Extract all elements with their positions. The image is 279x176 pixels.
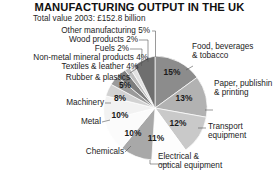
- label-transport-line2: equipment: [208, 131, 246, 140]
- label-food-beverages-tobacco: Food, beverages & tobacco: [192, 42, 253, 61]
- label-paper-line2: & printing: [214, 88, 249, 97]
- label-fuels: Fuels 2%: [0, 44, 129, 53]
- label-chemicals: Chemicals: [0, 147, 124, 156]
- pct-paper: 13%: [176, 93, 193, 103]
- label-non-metal-mineral-products: Non-metal mineral products 4%: [0, 53, 148, 62]
- label-metal: Metal: [0, 117, 101, 126]
- pie-slices: [104, 56, 207, 160]
- label-other-manufacturing: Other manufacturing 5%: [0, 26, 150, 35]
- label-transport-line1: Transport: [208, 122, 243, 131]
- label-wood-products: Wood products 2%: [0, 35, 138, 44]
- label-electrical-line2: optical equipment: [158, 161, 222, 170]
- pct-chemicals: 10%: [125, 128, 142, 138]
- pct-food: 15%: [164, 67, 181, 77]
- label-food-line1: Food, beverages: [192, 42, 253, 51]
- label-machinery: Machinery: [0, 98, 104, 107]
- pct-metal: 10%: [112, 110, 129, 120]
- label-electrical-line1: Electrical &: [158, 152, 199, 161]
- label-rubber-plastics: Rubber & plastics: [0, 73, 130, 82]
- label-textiles-leather: Textiles & leather 4%: [0, 62, 138, 71]
- pct-machinery: 8%: [114, 93, 127, 103]
- label-paper-publishing-printing: Paper, publishin & printing: [214, 79, 272, 98]
- pct-electrical: 11%: [148, 133, 165, 143]
- label-transport-equipment: Transport equipment: [208, 122, 246, 141]
- label-paper-line1: Paper, publishin: [214, 79, 272, 88]
- label-electrical-optical-equipment: Electrical & optical equipment: [158, 152, 222, 171]
- leader-other-manufacturing: [152, 31, 156, 57]
- pie-chart-figure: MANUFACTURING OUTPUT IN THE UK Total val…: [0, 0, 279, 176]
- label-food-line2: & tobacco: [192, 51, 228, 60]
- pct-transport: 12%: [170, 118, 187, 128]
